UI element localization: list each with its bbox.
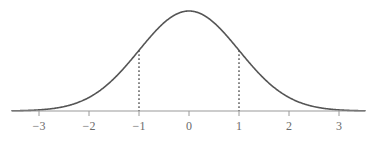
bell-curve-figure: −3−2−10123 — [0, 0, 376, 145]
x-tick-label-2: −1 — [124, 119, 154, 133]
x-axis-tick-marks — [39, 111, 339, 116]
x-tick-label-5: 2 — [274, 119, 304, 133]
gaussian-curve — [12, 11, 365, 111]
x-tick-label-3: 0 — [174, 119, 204, 133]
sigma-marker-lines — [139, 50, 239, 111]
x-tick-label-1: −2 — [74, 119, 104, 133]
x-tick-label-0: −3 — [24, 119, 54, 133]
x-tick-label-4: 1 — [224, 119, 254, 133]
x-tick-label-6: 3 — [324, 119, 354, 133]
